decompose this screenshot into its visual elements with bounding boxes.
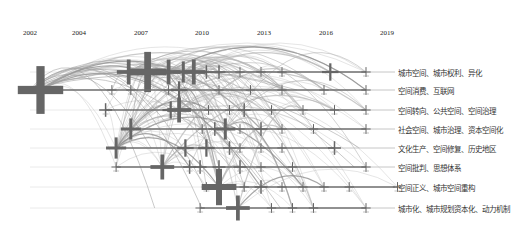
cluster-label-0: 城市空间、城市权利、异化 — [398, 67, 482, 78]
keyword-node[interactable] — [256, 162, 265, 172]
cluster-label-7: 城市化、城市规划资本化、动力机制 — [398, 203, 510, 214]
cluster-label-3: 社会空间、城市治理、资本空间化 — [398, 124, 503, 135]
keyword-node[interactable] — [194, 160, 207, 174]
cluster-row-7 — [195, 196, 395, 221]
keyword-node[interactable] — [150, 155, 174, 180]
keyword-node[interactable] — [255, 180, 268, 194]
keyword-node[interactable] — [309, 203, 318, 213]
keyword-node[interactable] — [319, 182, 328, 192]
keyword-node[interactable] — [267, 203, 276, 213]
keyword-node[interactable] — [234, 160, 247, 174]
cluster-label-4: 文化生产、空间修复、历史地区 — [398, 143, 496, 154]
keyword-node[interactable] — [225, 105, 234, 115]
keyword-node[interactable] — [195, 203, 204, 213]
keyword-node[interactable] — [361, 162, 370, 172]
keyword-node[interactable] — [361, 124, 370, 134]
keyword-node[interactable] — [240, 182, 249, 192]
keyword-node[interactable] — [111, 162, 120, 172]
keyword-node[interactable] — [361, 203, 370, 213]
timeline-chart: 2002200420072010201320162019 城市空间、城市权利、异… — [0, 0, 532, 225]
cluster-label-5: 空间批判、思想体系 — [398, 162, 461, 173]
cluster-row-6 — [202, 169, 402, 205]
cluster-label-6: 空间正义、城市空间重构 — [398, 182, 475, 193]
cluster-label-1: 空间消费、互联网 — [398, 85, 454, 96]
keyword-node[interactable] — [361, 67, 370, 77]
cluster-label-2: 空间转向、公共空间、空间治理 — [398, 105, 496, 116]
link-arcs — [30, 43, 398, 208]
keyword-node[interactable] — [202, 169, 237, 205]
keyword-node[interactable] — [361, 85, 370, 95]
keyword-node[interactable] — [322, 63, 339, 80]
